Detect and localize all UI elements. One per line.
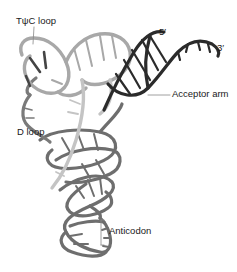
- d-loop-label: D loop: [17, 127, 44, 137]
- five-prime-label: 5′: [159, 27, 166, 37]
- tpsic-loop-label: TψC loop: [16, 16, 56, 26]
- anticodon-label: Anticodon: [109, 226, 151, 236]
- acceptor-arm-label: Acceptor arm: [172, 89, 229, 99]
- three-prime-label: 3′: [217, 43, 224, 53]
